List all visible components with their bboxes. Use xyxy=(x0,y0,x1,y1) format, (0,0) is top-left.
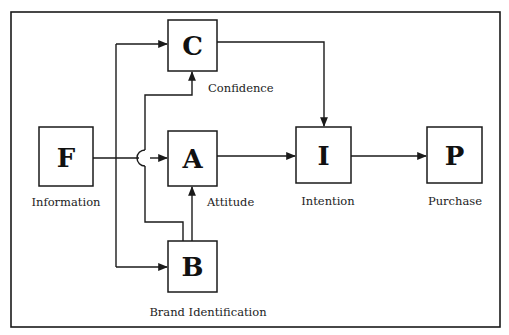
node-f-letter: F xyxy=(57,143,76,173)
node-i-letter: I xyxy=(317,141,329,171)
node-f-label: Information xyxy=(31,195,101,209)
node-a-letter: A xyxy=(181,144,203,174)
node-b-letter: B xyxy=(182,252,204,282)
node-p-label: Purchase xyxy=(428,194,482,208)
node-c-label: Confidence xyxy=(208,81,274,95)
node-a-label: Attitude xyxy=(206,195,254,209)
node-i-label: Intention xyxy=(301,194,355,208)
node-p-letter: P xyxy=(445,141,465,171)
node-b-label: Brand Identification xyxy=(149,305,267,319)
node-c-letter: C xyxy=(182,31,203,61)
consumer-decision-diagram: C F A I P B Confidence Information Attit… xyxy=(0,0,509,335)
